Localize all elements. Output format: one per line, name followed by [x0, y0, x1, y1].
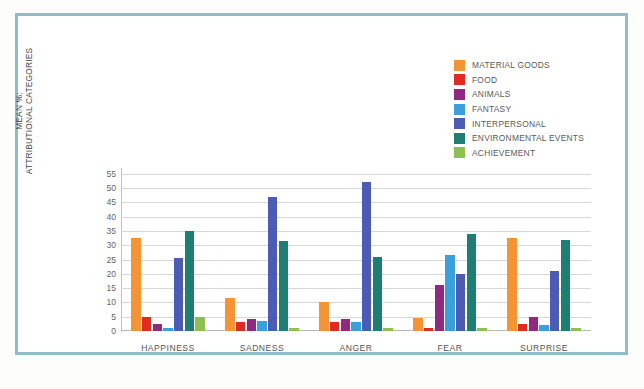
bar [163, 328, 173, 331]
bar-group: HAPPINESS [121, 168, 215, 331]
x-axis-category-label: SADNESS [215, 343, 309, 353]
bar [445, 255, 455, 331]
bar [279, 241, 289, 331]
legend-label: INTERPERSONAL [472, 119, 546, 129]
bar [174, 258, 184, 331]
bar [550, 271, 560, 331]
bar [413, 318, 423, 331]
bar [268, 197, 278, 331]
bar [319, 302, 329, 331]
bar [195, 317, 205, 331]
bar-group: FEAR [403, 168, 497, 331]
bar-group: SURPRISE [497, 168, 591, 331]
legend-swatch-icon [454, 74, 465, 85]
legend-item: ACHIEVEMENT [454, 146, 644, 161]
x-axis-category-label: ANGER [309, 343, 403, 353]
plot-area: 0510152025303540455055HAPPINESSSADNESSAN… [121, 168, 591, 331]
bar [477, 328, 487, 331]
legend-swatch-icon [454, 104, 465, 115]
legend-label: FOOD [472, 75, 497, 85]
bar [351, 322, 361, 331]
x-axis-category-label: HAPPINESS [121, 343, 215, 353]
legend-swatch-icon [454, 118, 465, 129]
legend-item: FANTASY [454, 102, 644, 117]
legend-label: MATERIAL GOODS [472, 60, 550, 70]
legend-swatch-icon [454, 60, 465, 71]
legend-item: INTERPERSONAL [454, 116, 644, 131]
y-axis-tick-label: 35 [106, 226, 116, 236]
bar-group: ANGER [309, 168, 403, 331]
figure-frame: MATERIAL GOODSFOODANIMALSFANTASYINTERPER… [15, 13, 628, 355]
bar [467, 234, 477, 331]
y-axis-tick-label: 15 [106, 283, 116, 293]
bar [153, 324, 163, 331]
legend-label: FANTASY [472, 104, 511, 114]
legend-item: ENVIRONMENTAL EVENTS [454, 131, 644, 146]
legend-label: ANIMALS [472, 89, 511, 99]
y-axis-tick-label: 5 [111, 312, 116, 322]
y-axis-tick-label: 45 [106, 197, 116, 207]
bar [456, 274, 466, 331]
bar [225, 298, 235, 331]
chart-legend: MATERIAL GOODSFOODANIMALSFANTASYINTERPER… [454, 58, 644, 160]
bar [539, 325, 549, 331]
y-axis-title-line1: MEAN %: [14, 36, 24, 186]
bar [236, 322, 246, 331]
bar [424, 328, 434, 331]
bar [131, 238, 141, 331]
y-axis-tick-label: 10 [106, 297, 116, 307]
legend-item: FOOD [454, 73, 644, 88]
legend-label: ENVIRONMENTAL EVENTS [472, 133, 584, 143]
bar-group: SADNESS [215, 168, 309, 331]
bar [247, 319, 257, 331]
bar [571, 328, 581, 331]
bar [289, 328, 299, 331]
y-axis-tick-label: 30 [106, 240, 116, 250]
y-axis-title-line2: ATTRIBUTIONAL CATEGORIES [24, 36, 34, 186]
y-axis-tick-label: 0 [111, 326, 116, 336]
y-axis-tick-label: 50 [106, 183, 116, 193]
bar [435, 285, 445, 331]
bar [529, 317, 539, 331]
legend-item: ANIMALS [454, 87, 644, 102]
legend-swatch-icon [454, 147, 465, 158]
bar [362, 182, 372, 331]
screenshot-canvas: MATERIAL GOODSFOODANIMALSFANTASYINTERPER… [0, 0, 644, 389]
bar [185, 231, 195, 331]
bar [142, 317, 152, 331]
legend-item: MATERIAL GOODS [454, 58, 644, 73]
x-axis-category-label: FEAR [403, 343, 497, 353]
bar [330, 322, 340, 331]
bar [518, 324, 528, 331]
legend-label: ACHIEVEMENT [472, 148, 535, 158]
bar [373, 257, 383, 331]
bar [383, 328, 393, 331]
y-axis-tick-label: 20 [106, 269, 116, 279]
bar [561, 240, 571, 332]
y-axis-tick-label: 55 [106, 169, 116, 179]
x-axis-category-label: SURPRISE [497, 343, 591, 353]
bar [341, 319, 351, 331]
legend-swatch-icon [454, 89, 465, 100]
y-axis-tick-label: 25 [106, 255, 116, 265]
y-axis-tick-label: 40 [106, 212, 116, 222]
bar [507, 238, 517, 331]
bar [257, 321, 267, 331]
y-axis-title: MEAN %: ATTRIBUTIONAL CATEGORIES [14, 36, 34, 186]
legend-swatch-icon [454, 133, 465, 144]
